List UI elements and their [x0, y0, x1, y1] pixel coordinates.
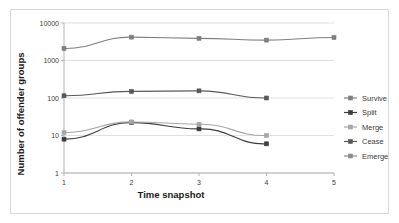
data-point-survive — [265, 38, 269, 42]
y-axis-tick-labels: 110100100010000 — [40, 20, 60, 177]
chart-container: 110100100010000 12345 SurviveSplitMergeC… — [10, 9, 389, 214]
data-point-merge — [197, 122, 201, 126]
data-point-survive — [130, 35, 134, 39]
x-tick-label: 3 — [197, 179, 201, 186]
legend-marker-survive — [349, 96, 353, 100]
series-line-cease — [64, 91, 267, 98]
axis-lines — [61, 23, 334, 176]
legend-marker-cease — [349, 140, 353, 144]
x-axis-tick-labels: 12345 — [62, 179, 336, 186]
legend-label-cease[interactable]: Cease — [362, 137, 384, 146]
x-tick-label: 4 — [265, 179, 269, 186]
legend-label-survive[interactable]: Survive — [362, 94, 387, 103]
y-axis-title: Number of offender groups — [15, 53, 26, 176]
x-tick-label: 5 — [332, 179, 336, 186]
data-point-cease — [62, 94, 66, 98]
legend-label-split[interactable]: Split — [362, 108, 378, 117]
data-point-survive — [62, 46, 66, 50]
data-point-merge — [130, 120, 134, 124]
data-point-split — [197, 127, 201, 131]
data-point-survive — [332, 36, 336, 40]
legend-marker-merge — [349, 125, 353, 129]
y-tick-label: 1000 — [43, 57, 59, 64]
y-tick-label: 10000 — [40, 20, 60, 27]
data-point-cease — [265, 96, 269, 100]
line-chart: 110100100010000 12345 SurviveSplitMergeC… — [11, 10, 388, 213]
y-tick-label: 1 — [55, 170, 59, 177]
data-point-survive — [197, 36, 201, 40]
data-point-cease — [197, 89, 201, 93]
grid-lines — [64, 23, 334, 173]
series-line-split — [64, 123, 267, 144]
data-series — [62, 35, 336, 146]
x-tick-label: 2 — [130, 179, 134, 186]
chart-legend: SurviveSplitMergeCeaseEmerge — [344, 94, 388, 161]
series-line-merge — [64, 122, 267, 136]
legend-label-merge[interactable]: Merge — [362, 123, 383, 132]
data-point-split — [265, 142, 269, 146]
y-tick-label: 10 — [51, 132, 59, 139]
data-point-merge — [265, 134, 269, 138]
x-tick-label: 1 — [62, 179, 66, 186]
x-axis-title: Time snapshot — [138, 189, 206, 200]
data-point-merge — [62, 131, 66, 135]
y-tick-label: 100 — [47, 95, 59, 102]
legend-marker-split — [349, 111, 353, 115]
legend-label-emerge[interactable]: Emerge — [362, 152, 388, 161]
data-point-split — [62, 137, 66, 141]
data-point-cease — [130, 89, 134, 93]
legend-marker-emerge — [349, 154, 353, 158]
